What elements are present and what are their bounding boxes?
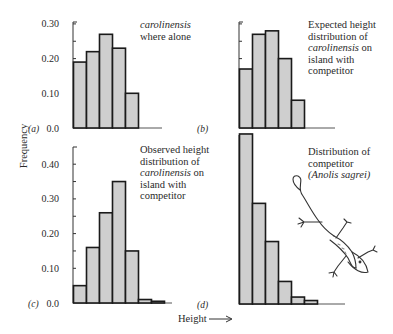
- y-tick-label: 0.30: [42, 18, 60, 29]
- panel-caption: carolinensiswhere alone: [140, 19, 191, 42]
- histogram-bar: [240, 134, 253, 304]
- histogram-bar: [253, 34, 266, 128]
- y-tick-label: 0.20: [42, 53, 60, 64]
- panel-c: 0.00.100.200.300.40(c)Observed heightdis…: [28, 144, 209, 310]
- y-tick-label: 0.20: [42, 228, 60, 239]
- panel-d: (d)Distribution ofcompetitor(Anolis sagr…: [197, 134, 371, 311]
- histogram-bar: [305, 301, 318, 304]
- histogram-bar: [113, 48, 126, 128]
- y-tick-label: 0.0: [47, 123, 60, 134]
- panel-label: (c): [28, 299, 39, 310]
- histogram-bar: [113, 182, 126, 303]
- panel-label: (b): [197, 124, 208, 135]
- histogram-bar: [87, 247, 100, 303]
- histogram-bar: [253, 203, 266, 304]
- histogram-bar: [152, 301, 165, 303]
- histogram-bar: [279, 281, 292, 304]
- histogram-bar: [126, 93, 139, 128]
- histogram-bar: [292, 297, 305, 304]
- histogram-bar: [74, 286, 87, 303]
- panel-label: (d): [197, 300, 208, 311]
- histogram-bar: [266, 242, 279, 304]
- panel-caption: Distribution ofcompetitor(Anolis sagrei): [308, 146, 371, 181]
- y-axis-label: Frequency: [18, 123, 29, 168]
- histogram-figure: 0.00.100.200.30(a)carolinensiswhere alon…: [0, 0, 393, 334]
- lizard-icon: [293, 176, 377, 277]
- y-tick-label: 0.10: [42, 263, 60, 274]
- y-tick-label: 0.40: [42, 159, 60, 170]
- panel-label: (a): [28, 124, 39, 135]
- histogram-bar: [100, 213, 113, 303]
- panel-a: 0.00.100.200.30(a)carolinensiswhere alon…: [28, 18, 191, 135]
- y-tick-label: 0.10: [42, 88, 60, 99]
- panel-caption: Expected heightdistribution ofcarolinens…: [308, 19, 376, 76]
- histogram-bar: [292, 100, 305, 128]
- histogram-bar: [100, 34, 113, 128]
- histogram-bar: [87, 52, 100, 128]
- panel-b: (b)Expected heightdistribution ofcarolin…: [197, 19, 376, 135]
- histogram-bar: [266, 31, 279, 128]
- y-tick-label: 0.0: [47, 298, 60, 309]
- histogram-bar: [240, 69, 253, 128]
- histogram-bar: [74, 62, 87, 128]
- histogram-bar: [279, 59, 292, 128]
- x-axis-label: Height: [178, 313, 207, 324]
- histogram-bar: [126, 251, 139, 303]
- histogram-bar: [139, 300, 152, 303]
- y-tick-label: 0.30: [42, 193, 60, 204]
- panel-caption: Observed heightdistribution ofcarolinens…: [140, 144, 209, 201]
